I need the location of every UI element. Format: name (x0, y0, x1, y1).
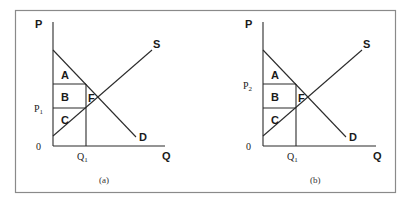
quantity-axis-label: Q (162, 150, 171, 162)
demand-label: D (349, 131, 357, 143)
figure-border (16, 11, 396, 193)
region-a-label: A (61, 69, 69, 81)
quantity-axis-label: Q (373, 150, 382, 162)
region-a-label: A (271, 69, 279, 81)
region-c-label: C (61, 114, 69, 126)
price-axis-label: P (35, 18, 42, 30)
panel-a-caption: (a) (99, 175, 109, 185)
quantity-q1-label: Q1 (77, 151, 88, 164)
price-p2-label: P2 (243, 80, 253, 93)
panel-b-caption: (b) (310, 175, 321, 185)
panel-a: P Q 0 P1 Q1 S D A B C F (a) (34, 18, 171, 185)
region-c-label: C (271, 114, 279, 126)
region-f-label: F (298, 92, 305, 104)
region-f-label: F (88, 92, 95, 104)
price-p1-label: P1 (34, 103, 44, 116)
region-b-label: B (61, 91, 69, 103)
supply-demand-figure: P Q 0 P1 Q1 S D A B C F (a) P Q 0 P2 Q1 … (0, 0, 410, 199)
demand-label: D (139, 131, 147, 143)
origin-label: 0 (246, 141, 251, 152)
panel-b: P Q 0 P2 Q1 S D A B C F (b) (243, 18, 382, 185)
supply-label: S (363, 38, 370, 50)
origin-label: 0 (36, 141, 41, 152)
supply-label: S (153, 38, 160, 50)
quantity-q1-label: Q1 (287, 151, 298, 164)
price-axis-label: P (245, 18, 252, 30)
region-b-label: B (271, 91, 279, 103)
